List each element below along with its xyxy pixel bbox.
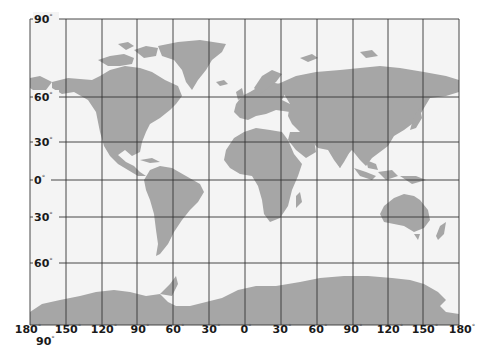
world-map: 90° 60° 30° 0° 30° 60° 90° 180° 150° 120… [0,0,489,361]
lon-label: 180° [15,323,41,336]
lon-label: 30° [202,323,221,336]
lon-label: 90° [344,323,363,336]
lon-label: 120° [91,323,117,336]
lon-label: 120° [377,323,403,336]
lon-label: 90° [131,323,150,336]
lon-label: 180° [449,323,475,336]
lon-label: 0° [240,323,251,336]
lon-label: 150° [412,323,438,336]
lon-label: 30° [273,323,292,336]
lon-label: 60° [166,323,185,336]
lon-label: 60° [309,323,328,336]
lon-label: 150° [55,323,81,336]
lat-label-90s: 90° [36,335,55,348]
